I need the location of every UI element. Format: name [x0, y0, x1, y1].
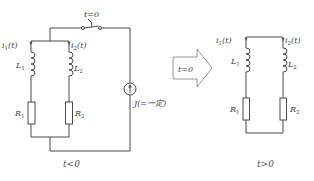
- inductor-l2: [283, 48, 287, 72]
- bottom-return-wire: [50, 95, 130, 151]
- inductor-label-l2: L2: [287, 60, 297, 70]
- current-label-i1: i1(t): [216, 36, 232, 46]
- caption-after: t>0: [257, 159, 274, 169]
- resistor-label-r1: R1: [229, 105, 240, 115]
- switch-blade: [85, 26, 99, 28]
- switch-terminal-right: [99, 27, 102, 30]
- switch-action-arrow-icon: [88, 19, 92, 27]
- branch-1: i1(t) L1 R1: [2, 41, 35, 137]
- switch-label: t=0: [84, 10, 99, 19]
- source-top-wire: [102, 28, 131, 83]
- branch-2: i2(t) L2 R2: [66, 41, 87, 137]
- inductor-l1: [246, 48, 250, 72]
- circuit-after: i1(t) L1 R1 i2(t) L2 R2 t>0: [216, 36, 301, 169]
- inductor-l1: [31, 52, 35, 76]
- caption-before: t<0: [63, 159, 80, 169]
- current-direction-arrow-icon: [30, 42, 33, 45]
- switch-terminal-left: [82, 27, 85, 30]
- resistor-r1: [28, 102, 35, 124]
- current-source-label: J(=一定): [132, 99, 166, 108]
- current-label-i1: i1(t): [2, 41, 18, 51]
- circuit-before: t=0 J(=一定) i1(t) L1 R1: [2, 10, 166, 169]
- resistor-label-r2: R2: [289, 105, 300, 115]
- resistor-r1: [243, 98, 250, 120]
- inductor-label-l2: L2: [73, 64, 83, 74]
- transition-label: t=0: [178, 65, 193, 74]
- current-label-i2: i2(t): [285, 36, 301, 46]
- branch-1: i1(t) L1 R1: [216, 36, 250, 133]
- switch: t=0: [82, 10, 102, 30]
- resistor-r2: [66, 102, 73, 124]
- switch-lead-wire: [50, 28, 82, 41]
- resistor-label-r2: R2: [74, 109, 85, 119]
- resistor-r2: [280, 98, 287, 120]
- circuit-diagram: t=0 J(=一定) i1(t) L1 R1: [0, 0, 314, 181]
- current-label-i2: i2(t): [71, 41, 87, 51]
- transition-arrow: t=0: [173, 49, 212, 87]
- inductor-l2: [69, 52, 73, 76]
- inductor-label-l1: L1: [230, 57, 240, 67]
- inductor-label-l1: L1: [15, 61, 25, 71]
- current-direction-arrow-icon: [245, 38, 248, 41]
- resistor-label-r1: R1: [14, 109, 25, 119]
- branch-2: i2(t) L2 R2: [280, 36, 301, 133]
